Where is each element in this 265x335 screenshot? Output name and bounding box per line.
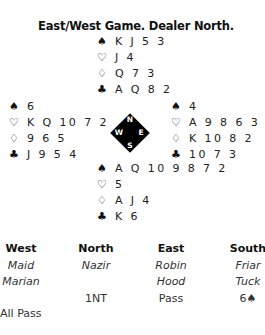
header-north: North: [71, 241, 121, 258]
spade-icon: ♠: [97, 161, 115, 177]
player-north: Nazir: [71, 258, 121, 275]
header-east: East: [146, 241, 196, 258]
heart-icon: ♡: [97, 177, 115, 193]
player-east: Robin: [146, 258, 196, 275]
north-hearts: ♡J 4: [97, 50, 172, 66]
player-south: Friar: [223, 258, 265, 275]
player-west-surname: Marian: [0, 274, 46, 291]
all-pass-text: All Pass: [0, 307, 41, 320]
player-names-row-1: Maid Nazir Robin Friar: [0, 258, 265, 275]
compass-south-label: S: [125, 141, 135, 150]
header-west: West: [0, 241, 46, 258]
west-diamonds: ♢9 6 5: [9, 131, 109, 147]
bid-east: Pass: [146, 291, 196, 308]
south-hearts: ♡5: [97, 177, 228, 193]
player-west: Maid: [0, 258, 46, 275]
heart-icon: ♡: [171, 115, 189, 131]
south-clubs: ♣K 6: [97, 209, 228, 225]
diamond-icon: ♢: [171, 131, 189, 147]
north-hand: ♠K J 5 3 ♡J 4 ♢Q 7 3 ♣A Q 8 2: [97, 34, 172, 98]
east-hearts: ♡A 9 8 6 3: [171, 115, 260, 131]
south-spades: ♠A Q 10 9 8 7 2: [97, 161, 228, 177]
north-clubs: ♣A Q 8 2: [97, 82, 172, 98]
east-diamonds: ♢K 10 8 2: [171, 131, 260, 147]
diamond-icon: ♢: [9, 131, 27, 147]
bidding-row-1: 1NT Pass 6♠: [0, 291, 265, 308]
spade-icon: ♠: [97, 34, 115, 50]
west-spades: ♠6: [9, 99, 109, 115]
spade-icon: ♠: [9, 99, 27, 115]
heart-icon: ♡: [97, 50, 115, 66]
diamond-icon: ♢: [97, 193, 115, 209]
west-hearts: ♡K Q 10 7 2: [9, 115, 109, 131]
club-icon: ♣: [9, 147, 27, 163]
north-diamonds: ♢Q 7 3: [97, 66, 172, 82]
auction-header-row: West North East South: [0, 241, 265, 258]
auction-table: West North East South Maid Nazir Robin F…: [0, 241, 265, 307]
north-spades: ♠K J 5 3: [97, 34, 172, 50]
compass-north-label: N: [125, 115, 135, 124]
bid-north: 1NT: [71, 291, 121, 308]
compass-west-label: W: [114, 128, 124, 137]
club-icon: ♣: [97, 209, 115, 225]
south-hand: ♠A Q 10 9 8 7 2 ♡5 ♢A J 4 ♣K 6: [97, 161, 228, 225]
south-diamonds: ♢A J 4: [97, 193, 228, 209]
east-spades: ♠4: [171, 99, 260, 115]
bid-south: 6♠: [223, 291, 265, 308]
west-clubs: ♣J 9 5 4: [9, 147, 109, 163]
heart-icon: ♡: [9, 115, 27, 131]
compass-diamond-icon: N E S W: [110, 113, 150, 153]
west-hand: ♠6 ♡K Q 10 7 2 ♢9 6 5 ♣J 9 5 4: [9, 99, 109, 163]
player-east-surname: Hood: [146, 274, 196, 291]
player-names-row-2: Marian Hood Tuck: [0, 274, 265, 291]
diamond-icon: ♢: [97, 66, 115, 82]
player-south-surname: Tuck: [223, 274, 265, 291]
header-south: South: [223, 241, 265, 258]
spade-icon: ♠: [171, 99, 189, 115]
club-icon: ♣: [97, 82, 115, 98]
east-hand: ♠4 ♡A 9 8 6 3 ♢K 10 8 2 ♣10 7 3: [171, 99, 260, 163]
deal-title: East/West Game. Dealer North.: [0, 19, 265, 33]
compass-east-label: E: [136, 128, 146, 137]
